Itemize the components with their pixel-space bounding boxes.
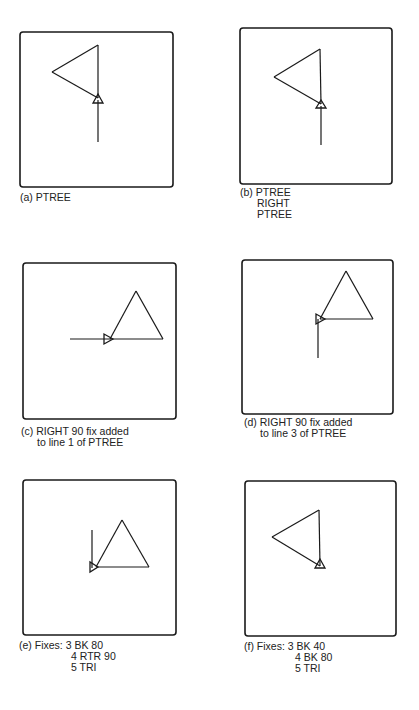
caption-c: (c) RIGHT 90 fix added to line 1 of PTRE… xyxy=(21,426,129,448)
turtle-drawing xyxy=(318,271,373,358)
figure-canvas xyxy=(0,0,419,710)
caption-line: (a) PTREE xyxy=(20,191,71,203)
panel-a xyxy=(20,32,173,187)
caption-b: (b) PTREE RIGHT PTREE xyxy=(240,187,292,220)
caption-line: PTREE xyxy=(240,209,292,220)
turtle-drawing xyxy=(272,510,320,566)
screen-frame xyxy=(20,32,173,187)
caption-a: (a) PTREE xyxy=(20,192,71,203)
turtle-drawing xyxy=(274,49,321,145)
caption-line: to line 3 of PTREE xyxy=(244,428,352,439)
turtle-drawing xyxy=(92,520,149,568)
panel-b xyxy=(240,28,392,184)
caption-line: 5 TRI xyxy=(244,663,332,674)
screen-frame xyxy=(245,481,396,636)
turtle-drawing xyxy=(70,291,163,339)
caption-d: (d) RIGHT 90 fix added to line 3 of PTRE… xyxy=(244,417,352,439)
panel-e xyxy=(23,480,176,635)
screen-frame xyxy=(23,480,176,635)
caption-line: to line 1 of PTREE xyxy=(21,437,129,448)
caption-line: 4 RTR 90 xyxy=(19,651,116,662)
panel-d xyxy=(242,260,393,414)
caption-e: (e) Fixes: 3 BK 80 4 RTR 90 5 TRI xyxy=(19,640,116,673)
turtle-icon xyxy=(90,562,98,572)
panel-c xyxy=(23,263,176,419)
turtle-drawing xyxy=(52,45,98,142)
caption-f: (f) Fixes: 3 BK 40 4 BK 80 5 TRI xyxy=(244,641,332,674)
screen-frame xyxy=(23,263,176,419)
panel-f xyxy=(245,481,396,636)
caption-line: 5 TRI xyxy=(19,662,116,673)
